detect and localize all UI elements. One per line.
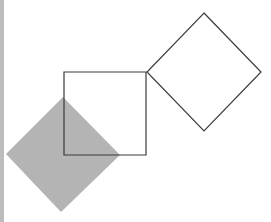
diagram-canvas (0, 0, 271, 222)
outline-diamond (147, 13, 261, 131)
